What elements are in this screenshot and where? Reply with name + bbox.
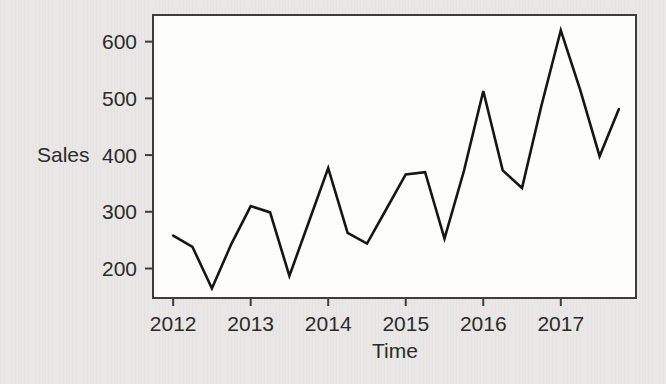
y-tick-label: 300 xyxy=(102,200,137,223)
x-tick-label: 2016 xyxy=(460,312,507,335)
y-axis-tick-labels: 200300400500600 xyxy=(102,30,137,280)
x-axis-title: Time xyxy=(372,339,418,363)
sales-time-series-chart: 201220132014201520162017 200300400500600 xyxy=(0,0,666,384)
y-axis-title: Sales xyxy=(37,143,90,167)
x-axis-tick-labels: 201220132014201520162017 xyxy=(150,312,584,335)
y-tick-label: 400 xyxy=(102,144,137,167)
x-tick-label: 2017 xyxy=(537,312,584,335)
x-tick-label: 2013 xyxy=(227,312,274,335)
y-axis-ticks xyxy=(145,42,152,269)
x-axis-ticks xyxy=(173,299,561,306)
y-tick-label: 500 xyxy=(102,87,137,110)
y-tick-label: 200 xyxy=(102,257,137,280)
x-tick-label: 2015 xyxy=(382,312,429,335)
scanned-page-background: 201220132014201520162017 200300400500600… xyxy=(0,0,666,384)
y-tick-label: 600 xyxy=(102,30,137,53)
x-tick-label: 2014 xyxy=(305,312,352,335)
x-tick-label: 2012 xyxy=(150,312,197,335)
